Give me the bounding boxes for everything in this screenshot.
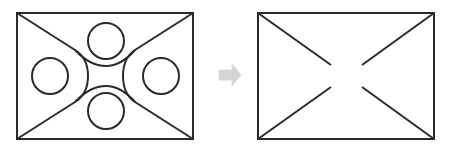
right-circle [143, 58, 179, 94]
left-panel [17, 13, 193, 139]
top-circle [88, 23, 124, 59]
right-panel [258, 13, 434, 139]
diagonal-top-right [362, 13, 434, 65]
diagonal-bottom-right [362, 87, 434, 139]
diagram-canvas [0, 0, 456, 153]
diagonal-bottom-left [258, 87, 331, 139]
bottom-circle [88, 93, 124, 129]
left-circle [32, 58, 68, 94]
left-curved-diagonal [17, 13, 88, 139]
diagonal-top-left [258, 13, 331, 65]
left-rectangle [17, 13, 193, 139]
right-curved-diagonal [123, 13, 193, 139]
transform-arrow-icon [219, 64, 241, 86]
